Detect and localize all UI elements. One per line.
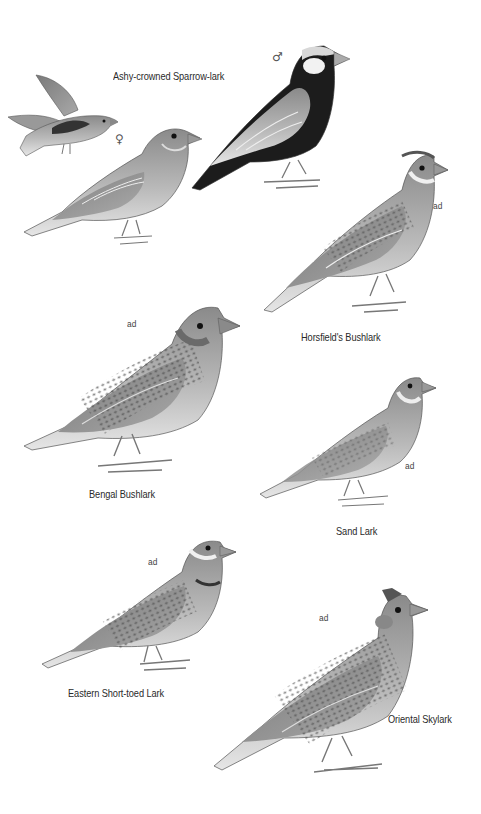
bird-illustration-ashy-crowned-sparrow-lark-female	[22, 120, 202, 245]
species-label-eastern-short-toed-lark: Eastern Short-toed Lark	[68, 687, 164, 699]
bird-illustration-oriental-skylark	[212, 586, 430, 776]
bird-illustration-bengal-bushlark	[22, 304, 240, 474]
bird-illustration-sand-lark	[258, 376, 436, 506]
species-label-bengal-bushlark: Bengal Bushlark	[89, 488, 155, 500]
species-label-horsfields-bushlark: Horsfield's Bushlark	[301, 331, 381, 343]
species-label-sand-lark: Sand Lark	[336, 525, 377, 537]
bird-illustration-eastern-short-toed-lark	[40, 538, 236, 672]
age-tag-ad: ad	[405, 460, 414, 471]
species-label-oriental-skylark: Oriental Skylark	[388, 713, 452, 725]
bird-illustration-horsfields-bushlark	[262, 150, 448, 315]
